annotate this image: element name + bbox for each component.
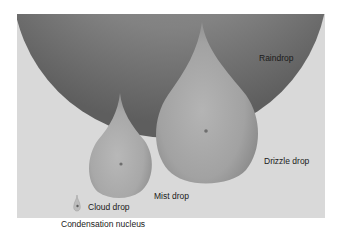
cloud-drop-nucleus [76,205,78,207]
condensation-nucleus-dot [48,221,51,224]
mist-drop-nucleus [119,162,122,165]
raindrop-label: Raindrop [259,54,294,63]
condensation-nucleus-label: Condensation nucleus [61,220,145,229]
drizzle-drop-nucleus [204,129,208,133]
mist-drop-label: Mist drop [154,192,189,201]
drizzle-drop-label: Drizzle drop [264,157,309,166]
cloud-drop-label: Cloud drop [88,203,130,212]
droplet-size-diagram [0,0,339,250]
